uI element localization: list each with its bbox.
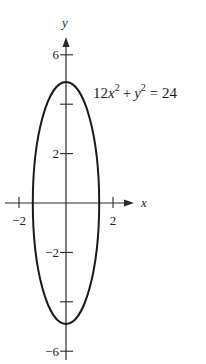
- y-axis: y: [60, 15, 70, 360]
- y-tick-label: −2: [45, 245, 59, 260]
- x-axis-arrow-icon: [124, 200, 134, 207]
- y-tick-label: 6: [53, 47, 60, 62]
- y-tick-label: 2: [53, 146, 60, 161]
- y-tick-label: −6: [45, 344, 59, 359]
- y-axis-arrow-icon: [63, 37, 70, 47]
- equation-label: 12x2+y2= 24: [93, 82, 178, 101]
- x-tick-label: 2: [110, 213, 117, 228]
- ellipse-chart: x y −2262−2−6 12x2+y2= 24: [0, 0, 206, 364]
- y-axis-label: y: [60, 15, 68, 30]
- x-axis: x: [5, 195, 147, 210]
- x-tick-label: −2: [12, 213, 26, 228]
- x-axis-label: x: [140, 195, 147, 210]
